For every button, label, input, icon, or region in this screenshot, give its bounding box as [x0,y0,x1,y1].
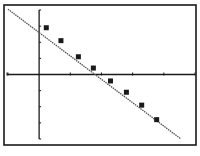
data-point [44,25,49,30]
data-point [139,103,144,108]
data-point [124,90,129,95]
data-point [108,78,113,83]
data-point [76,54,81,59]
data-point [154,117,159,122]
data-point [91,66,96,71]
data-point [58,38,63,43]
axes [7,10,195,139]
graph-screen [0,0,200,156]
